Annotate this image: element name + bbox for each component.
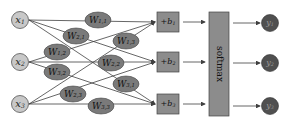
weight-node-1-3: W1,3 — [113, 33, 139, 49]
weight-node-3-3: W3,3 — [88, 98, 114, 114]
weight-node-1-2: W1,2 — [44, 44, 70, 60]
weight-node-2-3: W2,3 — [60, 86, 86, 102]
bias-box-1: +b1 — [157, 12, 179, 32]
bias-box-3: +b3 — [157, 94, 179, 114]
input-node-x1: x1 — [12, 12, 29, 29]
weight-node-2-2: W2,2 — [98, 55, 124, 71]
weight-node-2-1: W2,1 — [63, 28, 89, 44]
softmax-label: softmax — [215, 46, 225, 82]
output-node-y1: y1 — [262, 15, 279, 32]
input-node-x3: x3 — [12, 96, 29, 113]
output-node-y3: y3 — [262, 98, 279, 115]
input-node-x2: x2 — [12, 54, 29, 71]
softmax-network-diagram: x1x2x3W1,1W2,1W1,2W1,3W2,2W3,2W2,3W3,1W3… — [0, 0, 290, 124]
softmax-box: softmax — [209, 12, 229, 116]
output-node-y2: y2 — [262, 55, 279, 72]
weight-node-1-1: W1,1 — [85, 12, 111, 28]
weight-node-3-2: W3,2 — [44, 64, 70, 80]
bias-box-2: +b2 — [157, 52, 179, 72]
weight-node-3-1: W3,1 — [113, 76, 139, 92]
